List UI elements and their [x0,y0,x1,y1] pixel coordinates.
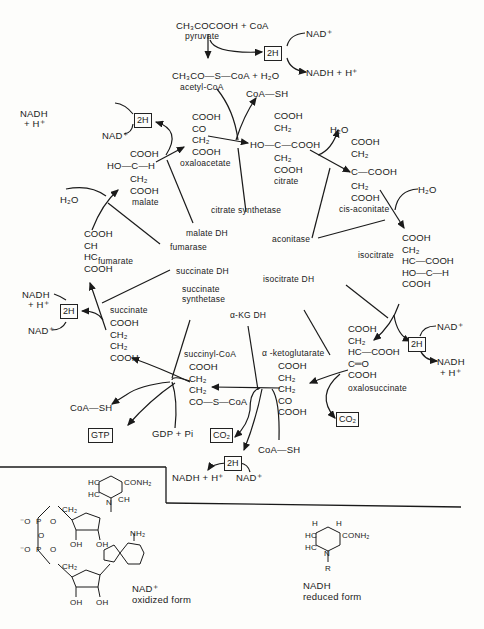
nad-p-2: P [36,544,42,555]
nad-o-2: O [50,544,56,555]
h-plus-malate: + H⁺ [24,118,45,129]
h-plus-isocitrate: + H⁺ [440,367,461,378]
coa-sh-succinyl: CoA—SH [70,402,112,413]
oxaloacetate-structure: COOH CO CH₂ COOH [192,111,221,157]
isocitrate-structure: COOH CH₂ HC—COOH HO—C—H COOH [402,232,454,290]
citrate-structure-bot: CH₂ COOH [274,152,303,175]
nad-oh-3: OH [70,597,82,608]
cis-aconitate-structure-mid: C—COOH [351,166,397,177]
nadh-reduced-caption: reduced form [303,591,361,602]
enzyme-fumarase: fumarase [170,242,207,253]
nad-label-pyruvate: NAD⁺ [306,28,332,39]
isocitrate-label: isocitrate [358,250,394,261]
enzyme-malate-dh: malate DH [186,228,228,239]
h2o-malate: H₂O [60,194,79,205]
citrate-structure-top: COOH CH₂ [274,110,303,133]
nad-o-1: O [50,516,56,527]
coa-sh-label-top: CoA—SH [246,88,288,99]
co2-box-akg: CO₂ [210,428,233,443]
citric-acid-cycle-diagram: CH₃COCOOH + CoA pyruvate 2H NAD⁺ NADH + … [0,0,484,629]
nadh-ring-r: R [325,563,331,574]
acetylcoa-formula: CH₃CO—S—CoA + H₂O [172,70,279,81]
2h-box-pyruvate: 2H [264,46,282,61]
nad-isocitrate: NAD⁺ [437,321,463,332]
2h-box-malate: 2H [134,113,152,128]
nad-nh2: NH₂ [130,528,145,539]
h2o-isocitrate: H₂O [418,184,437,195]
citrate-label: citrate [274,176,299,187]
nadh-h-akg: NADH + H⁺ [172,472,223,483]
gdp-pi: GDP + Pi [152,428,193,439]
2h-box-akg: 2H [224,456,242,471]
nad-succinate: NAD⁺ [28,325,54,336]
fumarate-structure: COOH CH HC COOH [84,228,113,274]
malate-structure-mid: HO—C—H [107,160,155,171]
nad-oh-2: OH [96,539,108,550]
nadh-h-2: H [336,518,342,529]
nadh-ring-hc2: HC [305,542,317,553]
nadh-label-pyruvate: NADH + H⁺ [306,67,357,78]
nad-ch2-2: CH₂ [62,561,77,572]
enzyme-isocitrate-dh: isocitrate DH [263,274,314,285]
2h-box-succinate: 2H [60,304,78,319]
nad-ring-n: N [106,497,112,508]
pyruvate-label: pyruvate [185,31,219,42]
malate-label: malate [132,197,159,208]
nadh-isocitrate: NADH [437,356,465,367]
succinyl-coa-structure: COOH CH₂ CH₂ CO—S—CoA [189,361,247,407]
enzyme-citrate-synthetase: citrate synthetase [211,205,281,216]
enzyme-succinate-dh: succinate DH [176,266,229,277]
coa-sh-akg: CoA—SH [258,444,300,455]
nadh-h-1: H [312,518,318,529]
oxalosuccinate-label: oxalosuccinate [348,383,407,394]
2h-box-isocitrate: 2H [408,337,426,352]
nadh-reduced-name: NADH [303,580,331,591]
enzyme-alpha-kg-dh: α-KG DH [230,310,266,321]
gtp-box: GTP [88,428,113,443]
nadh-conh2: CONH₂ [342,530,370,541]
nad-conh2: CONH₂ [124,477,152,488]
nad-oh-4: OH [96,597,108,608]
nad-oxidized-name: NAD⁺ [132,583,158,594]
fumarate-label: fumarate [98,256,133,267]
alpha-ketoglutarate-structure: COOH CH₂ CH₂ CO COOH [278,360,307,418]
nad-oh-1: OH [70,539,82,550]
nad-ominus-2: ⁻O [20,544,31,555]
pyruvate-formula: CH₃COCOOH + CoA [176,20,269,31]
enzyme-succinate-synthetase: succinate synthetase [182,284,242,304]
h2o-cis-aconitate: H₂O [330,124,349,135]
h-plus-succinate: + H⁺ [28,299,49,310]
succinyl-coa-label: succinyl-CoA [184,349,236,360]
citrate-structure-mid: HO—C—COOH [250,139,320,150]
nad-oxidized-caption: oxidized form [132,594,191,605]
malate-structure-top: COOH [130,148,159,160]
nad-ring-ch: CH [118,494,130,505]
nadh-ring-hc1: HC [305,530,317,541]
nad-o-bridge: O [38,530,44,541]
enzyme-aconitase: aconitase [272,234,310,245]
oxaloacetate-label: oxaloacetate [180,158,231,169]
nadh-ring-n: N [324,548,330,559]
nad-ominus-1: ⁻O [20,516,31,527]
malate-structure-bot: CH₂ COOH [130,173,159,196]
co2-box-oxalosuccinate: CO₂ [336,412,359,427]
nad-malate: NAD⁺ [102,130,128,141]
alpha-ketoglutarate-label: α -ketoglutarate [262,348,324,359]
acetylcoa-label: acetyl-CoA [180,82,224,93]
nad-ring-hc2: HC [88,489,100,500]
nad-p-1: P [36,516,42,527]
succinate-label: succinate [110,305,148,316]
nad-structure-lines [38,476,340,597]
succinate-structure: COOH CH₂ CH₂ COOH [110,317,139,363]
cis-aconitate-label: cis-aconitate [339,204,389,215]
cis-aconitate-structure-bot: CH₂ COOH [351,180,380,203]
nad-ring-hc1: HC [88,477,100,488]
nad-akg: NAD⁺ [236,472,262,483]
nad-ch2-1: CH₂ [62,504,77,515]
cis-aconitate-structure-top: COOH CH₂ [351,136,380,159]
oxalosuccinate-structure: COOH CH₂ HC—COOH C═O COOH [348,323,400,381]
